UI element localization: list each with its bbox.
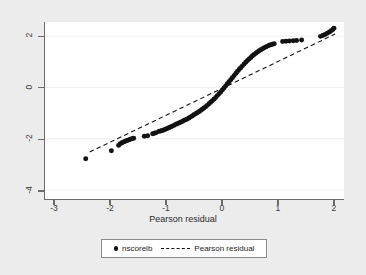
x-tick-label: -1: [156, 203, 176, 213]
x-tick-label: 2: [324, 203, 344, 213]
y-tick-label: 0: [24, 78, 34, 96]
legend-dot-icon: [114, 246, 119, 251]
y-tick-mark: [38, 190, 44, 191]
y-tick-label: 2: [24, 26, 34, 44]
x-tick-label: 0: [212, 203, 232, 213]
x-axis-title: Pearson residual: [0, 214, 366, 224]
y-tick-label: -2: [24, 129, 34, 147]
chart-figure: 20-2-4 -3-2-1012 Pearson residual nscore…: [0, 0, 366, 275]
x-tick-label: -3: [44, 203, 64, 213]
y-tick-mark: [38, 36, 44, 37]
y-tick-mark: [38, 139, 44, 140]
reference-line: [90, 34, 335, 152]
scatter-points: [83, 26, 336, 162]
legend-label-nscorelb: nscorelb: [122, 244, 152, 253]
legend-item-pearson-residual[interactable]: Pearson residual: [161, 244, 254, 253]
x-tick-label: -2: [100, 203, 120, 213]
y-tick-mark: [38, 87, 44, 88]
chart-legend: nscorelb Pearson residual: [101, 239, 267, 258]
legend-item-nscorelb[interactable]: nscorelb: [114, 244, 153, 253]
legend-label-pearson-residual: Pearson residual: [194, 244, 254, 253]
legend-dash-icon: [161, 248, 190, 249]
plot-area: [44, 22, 344, 200]
y-tick-label: -4: [24, 181, 34, 199]
plot-canvas: [45, 22, 344, 199]
x-tick-label: 1: [268, 203, 288, 213]
